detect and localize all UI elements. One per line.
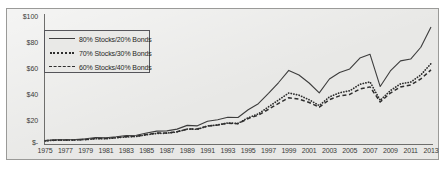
legend-item-70-30: 70% Stocks/30% Bonds [45,46,149,60]
legend-item-80-20: 80% Stocks/20% Bonds [45,32,149,46]
legend-line-solid-icon [49,34,75,44]
legend-item-label: 60% Stocks/40% Bonds [79,64,152,71]
legend-item-label: 70% Stocks/30% Bonds [79,50,152,57]
legend-item-label: 80% Stocks/20% Bonds [79,36,152,43]
series-lines [0,0,446,174]
legend-line-dotted-icon [49,48,75,58]
series-line-60-40 [45,70,431,141]
legend: 80% Stocks/20% Bonds 70% Stocks/30% Bond… [44,30,150,73]
legend-line-dashed-icon [49,62,75,72]
chart-container: $100 $80 $60 $40 $20 $- 1975197719791981… [0,0,446,174]
legend-item-60-40: 60% Stocks/40% Bonds [45,60,149,74]
series-line-70-30 [45,64,431,141]
